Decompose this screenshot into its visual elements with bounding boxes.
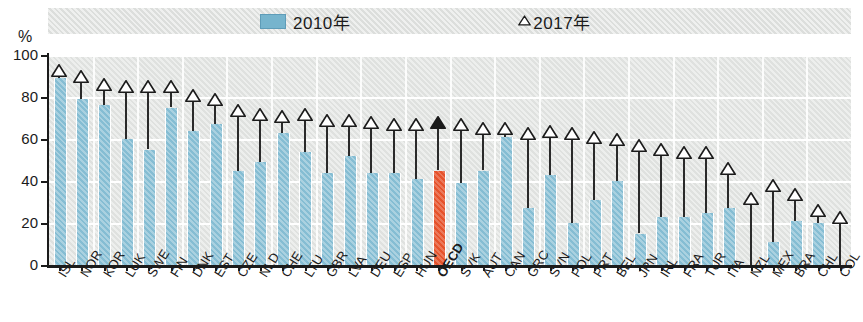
x-axis-label-BRA: BRA [791,249,818,280]
x-axis-label-SWE: SWE [144,247,172,280]
x-axis-label-GBR: GBR [323,248,351,280]
x-axis-label-HUN: HUN [412,248,440,280]
x-axis-label-TUR: TUR [702,249,729,280]
x-axis-label-NZL: NZL [747,251,773,280]
x-axis-label-CZE: CZE [234,250,260,280]
x-axis-label-CAN: CAN [501,249,528,280]
x-axis-label-JPN: JPN [635,251,661,280]
x-axis-label-POL: POL [568,250,595,280]
x-axis-label-DEU: DEU [367,249,394,280]
x-axis-label-MEX: MEX [769,248,797,280]
x-axis-label-EST: EST [211,251,237,280]
x-axis-label-NLD: NLD [256,250,283,280]
x-axis-label-DNK: DNK [189,249,216,280]
x-axis-label-AUT: AUT [479,250,505,280]
x-axis-label-ITA: ITA [724,256,747,280]
x-axis-label-GRC: GRC [524,247,552,279]
x-axis-label-ISL: ISL [55,255,78,279]
x-axis-label-BEL: BEL [613,251,639,280]
x-axis-label-NOR: NOR [77,247,105,279]
x-axis-label-ESP: ESP [390,250,417,280]
x-axis-label-PRT: PRT [590,250,616,280]
x-axis-label-KOR: KOR [100,248,128,280]
x-axis-label-CHE: CHE [278,249,305,280]
x-axis-label-COL: COL [836,249,863,280]
x-axis-label-FRA: FRA [680,250,706,280]
x-axis-label-CHL: CHL [814,250,841,280]
